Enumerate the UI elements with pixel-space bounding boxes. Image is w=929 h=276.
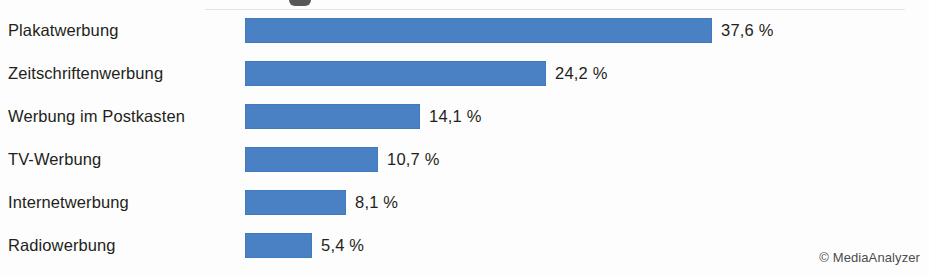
category-label: Internetwerbung <box>8 189 129 216</box>
bar-1 <box>245 61 546 86</box>
value-label: 8,1 % <box>355 189 398 216</box>
value-label: 24,2 % <box>555 60 608 87</box>
bar-row: TV-Werbung10,7 % <box>0 146 929 173</box>
bar-row: Werbung im Postkasten14,1 % <box>0 103 929 130</box>
bar-2 <box>245 104 420 129</box>
category-label: Radiowerbung <box>8 232 116 259</box>
bar-chart: Plakatwerbung37,6 %Zeitschriftenwerbung2… <box>0 0 929 276</box>
category-label: TV-Werbung <box>8 146 101 173</box>
category-label: Werbung im Postkasten <box>8 103 185 130</box>
bar-row: Plakatwerbung37,6 % <box>0 17 929 44</box>
bar-4 <box>245 190 346 215</box>
value-label: 5,4 % <box>321 232 364 259</box>
value-label: 10,7 % <box>387 146 440 173</box>
bar-5 <box>245 233 312 258</box>
bar-0 <box>245 18 712 43</box>
bar-3 <box>245 147 378 172</box>
bar-row: Zeitschriftenwerbung24,2 % <box>0 60 929 87</box>
value-label: 14,1 % <box>429 103 482 130</box>
value-label: 37,6 % <box>721 17 774 44</box>
chart-rows: Plakatwerbung37,6 %Zeitschriftenwerbung2… <box>0 0 929 276</box>
bar-row: Radiowerbung5,4 % <box>0 232 929 259</box>
category-label: Plakatwerbung <box>8 17 118 44</box>
bar-row: Internetwerbung8,1 % <box>0 189 929 216</box>
copyright-credit: © MediaAnalyzer <box>819 250 920 265</box>
category-label: Zeitschriftenwerbung <box>8 60 163 87</box>
